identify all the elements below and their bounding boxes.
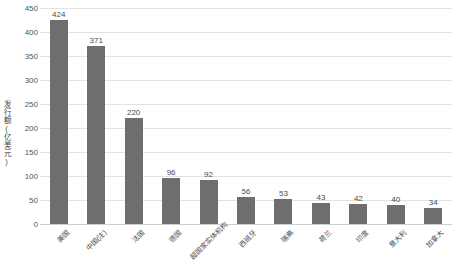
x-category-label: 瑞典 bbox=[263, 228, 296, 261]
bar bbox=[312, 203, 330, 224]
x-category-label: 荷兰 bbox=[300, 228, 333, 261]
axis-baseline bbox=[40, 224, 452, 225]
y-tick-label: 50 bbox=[12, 196, 38, 205]
bar-group: 220 bbox=[115, 8, 152, 224]
y-tick-label: 300 bbox=[12, 76, 38, 85]
x-category-label: 印度 bbox=[337, 228, 370, 261]
bar-group: 43 bbox=[302, 8, 339, 224]
y-axis-tick-labels: 450400350300250200150100500 bbox=[12, 0, 40, 274]
bar-value-label: 34 bbox=[415, 198, 452, 207]
bar-group: 34 bbox=[415, 8, 452, 224]
x-category-label: 中国(注) bbox=[75, 228, 108, 261]
bar bbox=[349, 204, 367, 224]
y-tick-label: 0 bbox=[12, 220, 38, 229]
x-category-label: 加拿大 bbox=[412, 228, 445, 261]
y-tick-label: 250 bbox=[12, 100, 38, 109]
bar-group: 424 bbox=[40, 8, 77, 224]
y-tick-label: 200 bbox=[12, 124, 38, 133]
bar-group: 96 bbox=[152, 8, 189, 224]
bar bbox=[200, 180, 218, 224]
bar-group: 371 bbox=[77, 8, 114, 224]
x-category-label: 意大利 bbox=[375, 228, 408, 261]
bar bbox=[162, 178, 180, 224]
bar-series: 4243712209692565343424034 bbox=[40, 8, 452, 224]
bar-value-label: 40 bbox=[377, 195, 414, 204]
bar bbox=[424, 208, 442, 224]
bar-group: 42 bbox=[340, 8, 377, 224]
bar-value-label: 43 bbox=[302, 193, 339, 202]
plot-area: 4243712209692565343424034 bbox=[40, 8, 452, 224]
bar bbox=[387, 205, 405, 224]
bar-value-label: 56 bbox=[227, 187, 264, 196]
bar-value-label: 424 bbox=[40, 10, 77, 19]
bar-value-label: 53 bbox=[265, 189, 302, 198]
y-tick-label: 450 bbox=[12, 4, 38, 13]
bar bbox=[87, 46, 105, 224]
bar bbox=[125, 118, 143, 224]
y-tick-label: 100 bbox=[12, 172, 38, 181]
x-category-label: 美国 bbox=[38, 228, 71, 261]
x-category-label: 超国家实体机构 bbox=[188, 228, 221, 261]
bar bbox=[237, 197, 255, 224]
bar-group: 56 bbox=[227, 8, 264, 224]
y-tick-label: 350 bbox=[12, 52, 38, 61]
x-category-label: 西班牙 bbox=[225, 228, 258, 261]
y-tick-label: 400 bbox=[12, 28, 38, 37]
x-category-label: 法国 bbox=[113, 228, 146, 261]
bar-group: 92 bbox=[190, 8, 227, 224]
y-tick-label: 150 bbox=[12, 148, 38, 157]
bar-value-label: 96 bbox=[152, 168, 189, 177]
bar-value-label: 371 bbox=[77, 36, 114, 45]
bar-group: 40 bbox=[377, 8, 414, 224]
bar bbox=[274, 199, 292, 224]
x-axis-category-labels: 美国中国(注)法国德国超国家实体机构西班牙瑞典荷兰印度意大利加拿大 bbox=[40, 226, 452, 274]
bar-group: 53 bbox=[265, 8, 302, 224]
bar-value-label: 220 bbox=[115, 108, 152, 117]
bar-value-label: 42 bbox=[340, 194, 377, 203]
bar-value-label: 92 bbox=[190, 170, 227, 179]
x-category-label: 德国 bbox=[150, 228, 183, 261]
bar bbox=[50, 20, 68, 224]
bar-chart: 发行额(亿美元) 450400350300250200150100500 424… bbox=[0, 0, 452, 274]
y-axis-title: 发行额(亿美元) bbox=[0, 78, 12, 188]
